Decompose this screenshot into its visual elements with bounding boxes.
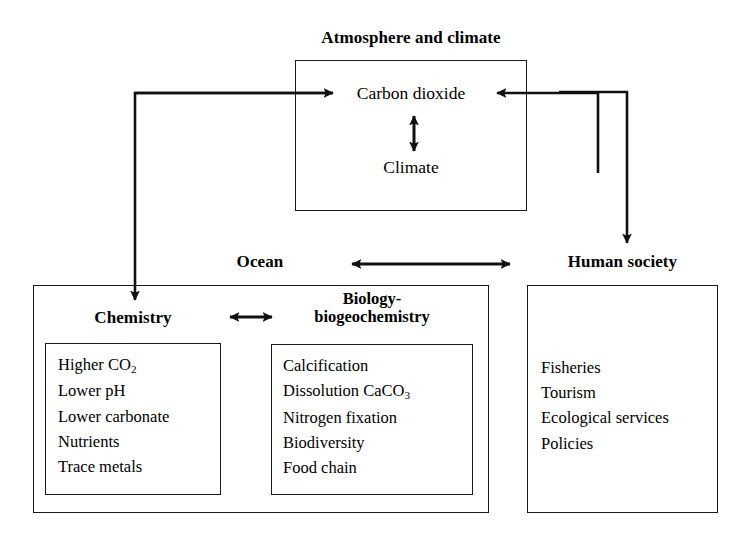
diagram-canvas: Atmosphere and climate Carbon dioxide Cl… (0, 0, 746, 539)
connector-society-to-atmosphere (497, 93, 598, 173)
connector-atmosphere-to-society (559, 92, 627, 243)
connector-layer (0, 0, 746, 539)
connector-ocean-to-atmosphere (135, 93, 333, 300)
